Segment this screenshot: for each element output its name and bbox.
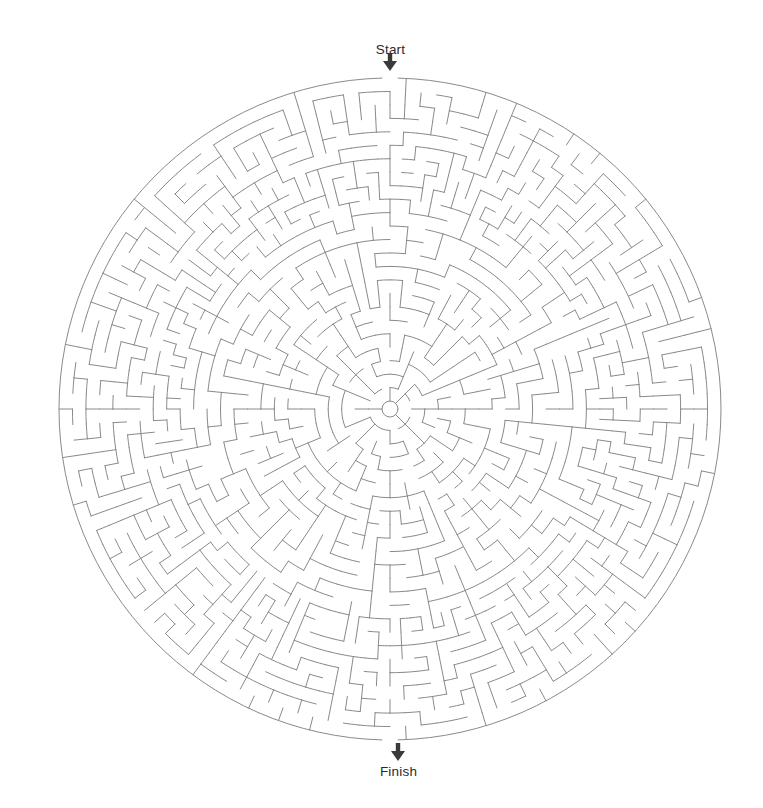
maze-wall-group	[59, 78, 721, 740]
maze-walls-path	[59, 78, 721, 740]
maze-page: Start Finish	[0, 0, 763, 808]
finish-arrow-icon	[391, 743, 405, 761]
finish-label: Finish	[17, 764, 763, 779]
circular-maze[interactable]	[0, 0, 763, 808]
start-label: Start	[9, 42, 763, 57]
